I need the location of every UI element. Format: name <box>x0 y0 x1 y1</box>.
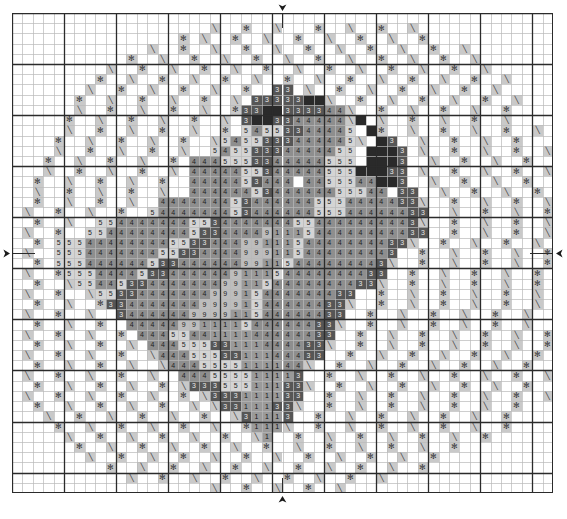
stitch-cell[interactable]: 4 <box>397 227 407 237</box>
stitch-cell[interactable]: ✻ <box>178 84 188 94</box>
stitch-cell[interactable]: 3 <box>345 289 355 299</box>
stitch-cell[interactable]: 3 <box>210 391 220 401</box>
stitch-cell[interactable]: ╲ <box>459 319 469 329</box>
stitch-cell[interactable]: 4 <box>95 279 105 289</box>
stitch-cell[interactable]: 3 <box>293 105 303 115</box>
stitch-cell[interactable]: 3 <box>210 381 220 391</box>
stitch-cell[interactable]: ✻ <box>407 279 417 289</box>
stitch-cell[interactable]: ╲ <box>126 74 136 84</box>
stitch-cell[interactable]: 3 <box>262 136 272 146</box>
stitch-cell[interactable]: ╲ <box>480 136 490 146</box>
stitch-cell[interactable]: 4 <box>199 258 209 268</box>
stitch-cell[interactable]: ╲ <box>387 340 397 350</box>
stitch-cell[interactable]: 4 <box>137 319 147 329</box>
stitch-cell[interactable]: ✻ <box>54 422 64 432</box>
stitch-cell[interactable]: 4 <box>199 207 209 217</box>
stitch-cell[interactable]: 5 <box>147 258 157 268</box>
stitch-cell[interactable]: ╲ <box>428 84 438 94</box>
stitch-cell[interactable]: 4 <box>116 217 126 227</box>
stitch-cell[interactable]: ╲ <box>480 197 490 207</box>
stitch-cell[interactable]: ✻ <box>303 483 313 493</box>
stitch-cell[interactable]: 5 <box>241 156 251 166</box>
stitch-cell[interactable]: 4 <box>189 176 199 186</box>
stitch-cell[interactable]: ✻ <box>543 330 553 340</box>
stitch-cell[interactable]: ✻ <box>459 360 469 370</box>
stitch-cell[interactable]: ╲ <box>283 54 293 64</box>
stitch-cell[interactable]: ╲ <box>376 473 386 483</box>
stitch-cell[interactable]: ╲ <box>85 370 95 380</box>
stitch-cell[interactable]: 4 <box>168 289 178 299</box>
stitch-cell[interactable]: ╲ <box>33 187 43 197</box>
stitch-cell[interactable]: 4 <box>262 340 272 350</box>
stitch-cell[interactable]: ✻ <box>293 432 303 442</box>
stitch-cell[interactable]: ✻ <box>418 340 428 350</box>
stitch-cell[interactable]: ╲ <box>210 483 220 493</box>
stitch-cell[interactable]: 1 <box>241 268 251 278</box>
stitch-cell[interactable]: 4 <box>314 176 324 186</box>
stitch-cell[interactable]: 4 <box>251 330 261 340</box>
stitch-cell[interactable]: ✻ <box>355 432 365 442</box>
stitch-cell[interactable]: ╲ <box>64 279 74 289</box>
stitch-cell[interactable]: 4 <box>230 166 240 176</box>
stitch-cell[interactable]: 4 <box>230 258 240 268</box>
stitch-cell[interactable]: ╲ <box>491 156 501 166</box>
stitch-cell[interactable]: ╲ <box>439 350 449 360</box>
cross-stitch-chart[interactable]: ╲✻╲✻╲✻╲✻╲✻╲✻╲✻╲✻╲✻╲✻╲✻╲✻╲✻╲✻╲✻╲✻╲✻╲✻╲✻╲╲… <box>12 13 553 493</box>
stitch-cell[interactable]: 3 <box>210 227 220 237</box>
stitch-cell[interactable]: ✻ <box>95 74 105 84</box>
stitch-cell[interactable]: 4 <box>272 166 282 176</box>
stitch-cell[interactable]: ✻ <box>366 452 376 462</box>
stitch-cell[interactable]: ✻ <box>439 54 449 64</box>
stitch-cell[interactable]: ╲ <box>470 125 480 135</box>
stitch-cell[interactable]: 4 <box>345 238 355 248</box>
stitch-cell[interactable]: 4 <box>355 248 365 258</box>
stitch-cell[interactable]: 4 <box>158 217 168 227</box>
stitch-cell[interactable]: ╲ <box>387 330 397 340</box>
stitch-cell[interactable]: ╲ <box>54 146 64 156</box>
stitch-cell[interactable]: ✻ <box>449 217 459 227</box>
stitch-cell[interactable]: 1 <box>241 350 251 360</box>
stitch-cell[interactable]: 4 <box>376 187 386 197</box>
stitch-cell[interactable]: 5 <box>303 227 313 237</box>
stitch-cell[interactable]: ╲ <box>158 115 168 125</box>
stitch-cell[interactable]: 3 <box>387 238 397 248</box>
stitch-cell[interactable]: ✻ <box>439 289 449 299</box>
stitch-cell[interactable]: ✻ <box>376 23 386 33</box>
stitch-cell[interactable]: ╲ <box>501 350 511 360</box>
stitch-cell[interactable]: ✻ <box>397 381 407 391</box>
stitch-cell[interactable]: ✻ <box>126 187 136 197</box>
stitch-cell[interactable]: 4 <box>262 217 272 227</box>
stitch-cell[interactable]: ╲ <box>418 136 428 146</box>
stitch-cell[interactable]: 4 <box>189 258 199 268</box>
stitch-cell[interactable]: ╲ <box>230 411 240 421</box>
stitch-cell[interactable]: ╲ <box>22 207 32 217</box>
stitch-cell[interactable]: ✻ <box>355 462 365 472</box>
stitch-cell[interactable]: ✻ <box>199 64 209 74</box>
stitch-cell[interactable]: ✻ <box>355 33 365 43</box>
stitch-cell[interactable]: 9 <box>241 238 251 248</box>
stitch-cell[interactable]: 4 <box>106 227 116 237</box>
stitch-cell[interactable]: 9 <box>241 248 251 258</box>
stitch-cell[interactable]: ✻ <box>387 442 397 452</box>
stitch-cell[interactable]: 3 <box>272 95 282 105</box>
stitch-cell[interactable]: ✻ <box>397 84 407 94</box>
stitch-cell[interactable]: 4 <box>116 258 126 268</box>
stitch-cell[interactable]: ✻ <box>324 64 334 74</box>
stitch-cell[interactable]: 4 <box>324 217 334 227</box>
stitch-cell[interactable]: 3 <box>387 248 397 258</box>
stitch-cell[interactable]: ╲ <box>335 319 345 329</box>
stitch-cell[interactable]: ╲ <box>147 44 157 54</box>
stitch-cell[interactable]: 5 <box>335 176 345 186</box>
stitch-cell[interactable]: 5 <box>85 268 95 278</box>
stitch-cell[interactable]: 4 <box>158 299 168 309</box>
stitch-cell[interactable]: ✻ <box>449 64 459 74</box>
stitch-cell[interactable]: 4 <box>262 330 272 340</box>
stitch-cell[interactable]: ✻ <box>220 74 230 84</box>
stitch-cell[interactable]: 4 <box>324 279 334 289</box>
stitch-cell[interactable]: 4 <box>324 115 334 125</box>
stitch-cell[interactable]: ✻ <box>418 33 428 43</box>
stitch-cell[interactable]: ╲ <box>418 442 428 452</box>
stitch-cell[interactable]: ✻ <box>345 74 355 84</box>
stitch-cell[interactable]: 4 <box>230 227 240 237</box>
stitch-cell[interactable]: 5 <box>272 125 282 135</box>
